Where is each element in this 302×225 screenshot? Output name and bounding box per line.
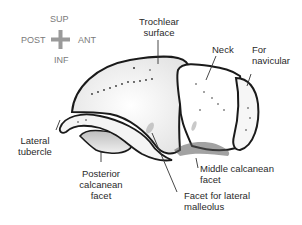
label-posterior-calcanean-facet: Posterior calcanean facet — [76, 168, 126, 201]
label-middle-calcanean-facet: Middle calcanean facet — [200, 163, 274, 185]
label-lateral-tubercle: Lateral tubercle — [12, 135, 58, 157]
label-for-navicular: For navicular — [252, 44, 290, 66]
orientation-inf-label: INF — [54, 55, 69, 65]
orientation-ant-label: ANT — [78, 35, 96, 45]
orientation-sup-label: SUP — [50, 14, 69, 24]
neck-shape — [177, 64, 241, 150]
navicular-head-shape — [233, 78, 258, 150]
label-facet-lateral-malleolus: Facet for lateral malleolus — [184, 190, 250, 212]
label-neck: Neck — [212, 44, 234, 55]
orientation-post-label: POST — [21, 35, 46, 45]
orientation-cross-icon — [51, 30, 70, 49]
talus-diagram: SUP INF POST ANT Trochlear surface Neck … — [0, 0, 302, 225]
label-trochlear-surface: Trochlear surface — [136, 16, 182, 38]
